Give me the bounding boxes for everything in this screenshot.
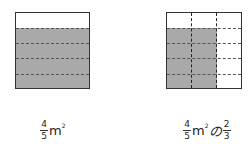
- particle-no: の: [209, 121, 222, 140]
- unit-base: m: [49, 123, 62, 138]
- row-divider: [16, 28, 89, 29]
- denominator: 5: [41, 132, 47, 141]
- left-square-diagram: [15, 12, 90, 89]
- row-divider: [16, 74, 89, 75]
- unit-base: m: [192, 123, 205, 138]
- row-divider: [16, 43, 89, 44]
- right-label: 4 5 m2 の 2 3: [183, 120, 232, 141]
- column-divider: [216, 13, 217, 88]
- column-divider: [191, 13, 192, 88]
- row-divider: [167, 58, 241, 59]
- fraction-four-fifths: 4 5: [40, 120, 48, 141]
- numerator: 4: [184, 120, 190, 129]
- numerator: 2: [224, 120, 230, 129]
- left-label: 4 5 m2: [40, 120, 66, 141]
- right-square-diagram: [166, 12, 242, 89]
- row-divider: [167, 43, 241, 44]
- square-meter-unit: m2: [192, 123, 209, 138]
- row-divider: [167, 28, 241, 29]
- denominator: 3: [224, 132, 230, 141]
- unit-exponent: 2: [62, 122, 66, 129]
- square-meter-unit: m2: [49, 123, 66, 138]
- numerator: 4: [41, 120, 47, 129]
- fraction-four-fifths: 4 5: [183, 120, 191, 141]
- fraction-two-thirds: 2 3: [223, 120, 231, 141]
- row-divider: [167, 74, 241, 75]
- unit-exponent: 2: [205, 122, 209, 129]
- row-divider: [16, 58, 89, 59]
- denominator: 5: [184, 132, 190, 141]
